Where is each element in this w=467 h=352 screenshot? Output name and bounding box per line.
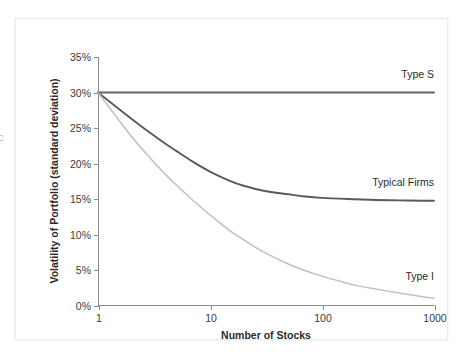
y-tick-label: 30% [70, 87, 91, 98]
y-tick-label: 0% [76, 301, 91, 312]
y-tick-label: 10% [70, 230, 91, 241]
series-line [98, 93, 434, 299]
y-tick-label: 25% [70, 123, 91, 134]
cropped-edge-glyph: c [0, 132, 4, 143]
y-tick-label: 15% [70, 194, 91, 205]
x-tick-label: 1 [96, 313, 102, 324]
x-tick-label: 10 [205, 313, 217, 324]
y-tick-label: 20% [70, 158, 91, 169]
figure-container: c Volatility of Portfolio (standard devi… [0, 0, 467, 352]
chart-card: Volatility of Portfolio (standard deviat… [15, 18, 448, 340]
series-label: Typical Firms [16, 176, 434, 187]
x-tick-label: 100 [314, 313, 332, 324]
series-label: Type S [16, 69, 434, 80]
x-tick-label: 1000 [423, 313, 446, 324]
series-label: Type I [16, 271, 434, 282]
y-tick-label: 35% [70, 52, 91, 63]
x-axis-title: Number of Stocks [98, 330, 434, 341]
x-tick-mark [435, 305, 436, 310]
